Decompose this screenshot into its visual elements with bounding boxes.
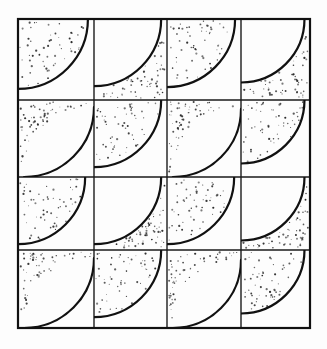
figure-root bbox=[0, 0, 327, 349]
tiling-pattern-svg bbox=[0, 0, 327, 349]
paper-background bbox=[0, 0, 327, 349]
